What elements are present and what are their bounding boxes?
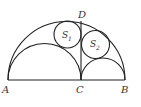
semicircle-ac — [8, 44, 81, 80]
label-s1-sub: 1 — [68, 35, 72, 42]
label-a: A — [1, 84, 9, 95]
arbelos-diagram: A C B D S 1 S 2 — [0, 0, 141, 107]
semicircle-cb — [81, 58, 125, 80]
label-d: D — [77, 9, 86, 20]
label-c: C — [76, 84, 84, 95]
label-b: B — [120, 84, 128, 95]
label-s2-sub: 2 — [95, 44, 100, 51]
